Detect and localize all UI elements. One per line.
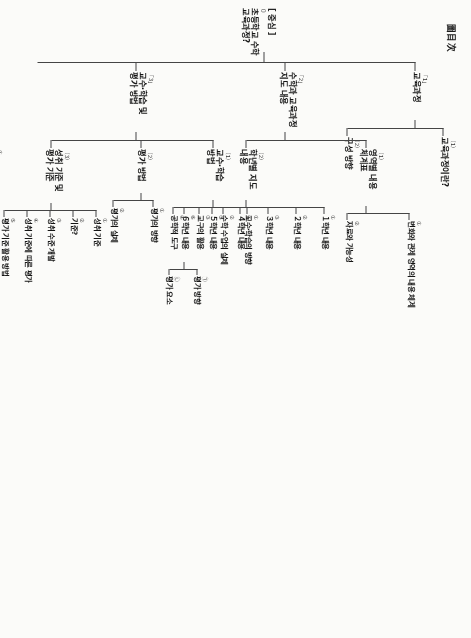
connector-spine [51, 140, 213, 141]
node-label: 교수·학습의 방향 [243, 215, 251, 265]
node-num: 「2」 [297, 72, 303, 127]
node-3-2-1: ① 평가의 방향 [149, 208, 164, 243]
connector [239, 207, 240, 214]
connector [198, 207, 199, 214]
node-label: ２학년 내용 [292, 215, 300, 250]
node-label: 성취 기준에 따른 평가 [23, 218, 31, 283]
node-3-3-3: ③ 성취 수준 개발 [46, 218, 61, 261]
connector [295, 207, 296, 214]
connector [72, 210, 73, 217]
node-2-1-1: ① 변화와 관계 영역의 내용 체계 [406, 221, 421, 307]
node-num: ② [78, 218, 84, 235]
node-num: （1） [449, 137, 455, 187]
node-3-3-4: ④ 성취 기준에 따른 평가 [23, 218, 38, 283]
node-label: 평가 방법 [136, 149, 145, 182]
node-3-2: （2） 평가 방법 [136, 149, 152, 182]
node-num: ① [415, 221, 421, 307]
connector [152, 200, 153, 207]
node-label: 지도 내용 [278, 72, 287, 127]
node-3-1-4: ④ 공학적 도구 [169, 215, 184, 250]
node-3-1-3: ③ 교구의 활용 [195, 215, 210, 250]
node-1: 「1」 교육과정 [411, 72, 427, 102]
connector [365, 140, 366, 148]
node-3-1-2: ② 수학 수업의 실제 [219, 215, 234, 265]
connector [49, 210, 50, 217]
connector [135, 132, 136, 140]
connector [442, 128, 443, 136]
node-label: １학년 내용 [320, 215, 328, 250]
node-num: ① [0, 150, 2, 185]
node-label: 평가의 방향 [149, 208, 157, 243]
connector [414, 120, 415, 128]
node-label: 체계표 [358, 149, 367, 189]
node-num: ③ [55, 218, 61, 261]
connector-spine [173, 207, 247, 208]
node-num: ㉠ [201, 276, 207, 304]
node-num: ① [101, 218, 107, 246]
diagram-sheet: 圖目次 [ 중심 ] ０ 초등학교 수학 교육과정? 「1」 교육과정 （1） … [0, 0, 471, 638]
connector [50, 140, 51, 148]
scanned-page: 圖目次 [ 중심 ] ０ 초등학교 수학 교육과정? 「1」 교육과정 （1） … [0, 0, 471, 638]
node-2-2-6-a: ㉠ 평가 방향 [192, 276, 207, 304]
connector [26, 210, 27, 217]
node-label: 교육과정 [411, 72, 420, 102]
node-num: ④ [178, 215, 184, 250]
node-2-1-2: ② 자료와 가능성 [344, 221, 359, 262]
node-label: 구성 방향 [343, 137, 352, 170]
node-num: ① [252, 215, 258, 265]
connector [263, 52, 264, 62]
node-label: 방법 [205, 149, 214, 182]
connector-spine [169, 269, 197, 270]
connector [135, 62, 136, 71]
connector-spine [246, 140, 366, 141]
connector-spine-root [37, 62, 415, 63]
node-num: ㉡ [173, 276, 179, 304]
connector [365, 206, 366, 213]
connector [323, 207, 324, 214]
connector [284, 62, 285, 71]
node-num: 「1」 [421, 72, 427, 102]
connector [246, 207, 247, 214]
node-3-2-2: ② 평가의 실제 [109, 208, 124, 243]
node-num: ① [329, 215, 335, 250]
node-num: ② [353, 221, 359, 262]
node-1-1: （1） 교육과정이란? [439, 137, 455, 187]
connector [212, 200, 213, 207]
node-2-2-3: ③ ３학년 내용 [264, 215, 279, 250]
node-3-3-5: ⑤ 평가 기준 활용 방법 [0, 218, 15, 276]
connector [172, 207, 173, 214]
node-num: ⑥ [189, 215, 195, 250]
connector [346, 213, 347, 220]
node-label: 자료와 가능성 [344, 221, 352, 262]
node-label: 교육과정이란? [439, 137, 448, 187]
node-num: （3） [63, 149, 69, 192]
connector [3, 210, 4, 217]
connector [245, 140, 246, 148]
node-label: 수학 수업의 실제 [219, 215, 227, 265]
page-title: 圖目次 [445, 24, 457, 52]
node-num: 「3」 [147, 72, 153, 115]
node-num: ④ [32, 218, 38, 283]
connector [211, 207, 212, 214]
node-2-2-2: ② ２학년 내용 [292, 215, 307, 250]
node-label: 내용 [238, 149, 247, 189]
node-label: 평가 방향 [192, 276, 200, 304]
node-label: 변화와 관계 영역의 내용 체계 [406, 221, 414, 307]
node-num: （2） [257, 149, 263, 189]
node-label: 성취 기준 [92, 218, 100, 246]
node-4-1: ① 교과서 체제 [0, 150, 2, 185]
node-label: 공학적 도구 [169, 215, 177, 250]
connector [346, 128, 347, 136]
connector-spine [347, 213, 409, 214]
connector [222, 207, 223, 214]
node-label: 평가 방법 [128, 72, 137, 115]
node-num: （1） [224, 149, 230, 182]
node-2-2-6-b: ㉡ 평가 요소 [164, 276, 179, 304]
connector [168, 269, 169, 275]
node-num: （2） [146, 149, 152, 182]
connector [112, 200, 113, 207]
node-num: ① [158, 208, 164, 243]
node-label: 성취 수준 개발 [46, 218, 54, 261]
connector [183, 262, 184, 269]
connector [408, 213, 409, 220]
